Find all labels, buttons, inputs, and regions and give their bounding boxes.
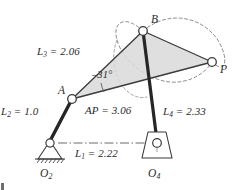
label-link3-subscript: 3 — [43, 50, 47, 59]
label-link4-subscript: 4 — [169, 110, 173, 119]
label-ap-symbol: AP — [85, 104, 98, 116]
label-ap-value: = 3.06 — [101, 104, 131, 116]
label-link1-length: L1 = 2.22 — [75, 148, 118, 160]
label-point-B: B — [151, 14, 158, 26]
label-point-A: A — [58, 85, 65, 97]
label-link3-value: = 2.06 — [50, 45, 80, 57]
page-corner-mark — [1, 183, 4, 190]
label-link1-value: = 2.22 — [88, 147, 118, 159]
joint-B — [139, 27, 148, 36]
joint-P — [208, 58, 217, 67]
label-link4-length: L4 = 2.33 — [163, 106, 206, 118]
pivot-support-O4 — [142, 132, 172, 158]
label-link1-subscript: 1 — [81, 152, 85, 161]
coupler-triangle — [72, 31, 212, 99]
label-O4-subscript: 4 — [156, 172, 160, 181]
label-link2-value: = 1.0 — [14, 105, 38, 117]
linkage-drawing — [0, 0, 238, 190]
label-angle: –31° — [92, 70, 112, 81]
label-pivot-O2: O2 — [40, 168, 52, 181]
link-L2 — [50, 99, 72, 141]
label-link3-length: L3 = 2.06 — [37, 46, 80, 58]
label-ap-length: AP = 3.06 — [85, 105, 131, 116]
label-O2-subscript: 2 — [48, 172, 52, 181]
label-pivot-O4: O4 — [148, 168, 160, 181]
label-point-P: P — [220, 64, 227, 76]
label-link2-subscript: 2 — [7, 110, 11, 119]
fourbar-linkage-figure: L3 = 2.06 –31° A B P L2 = 1.0 AP = 3.06 … — [0, 0, 238, 190]
label-link4-value: = 2.33 — [176, 105, 206, 117]
label-link2-length: L2 = 1.0 — [1, 106, 38, 118]
joint-A — [68, 95, 77, 104]
